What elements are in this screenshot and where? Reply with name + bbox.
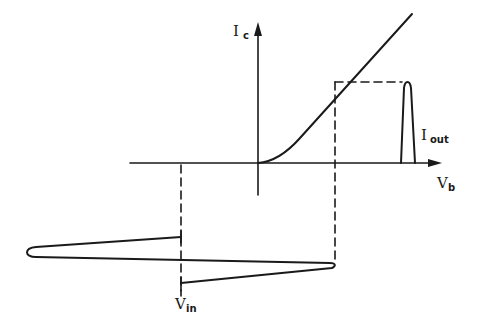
vb-axis-arrow-icon: [428, 159, 442, 167]
ic-axis-arrow-icon: [254, 22, 262, 36]
vin-label-sub: in: [186, 303, 197, 314]
output-pulse: [401, 82, 415, 163]
iout-label: I: [421, 126, 427, 144]
ic-label-sub: c: [243, 30, 249, 41]
ic-label: I: [233, 22, 239, 40]
vb-label-sub: b: [448, 182, 455, 193]
iout-label-sub: out: [430, 134, 449, 145]
transfer-characteristic-diagram: I c V b I out V in: [0, 0, 478, 336]
